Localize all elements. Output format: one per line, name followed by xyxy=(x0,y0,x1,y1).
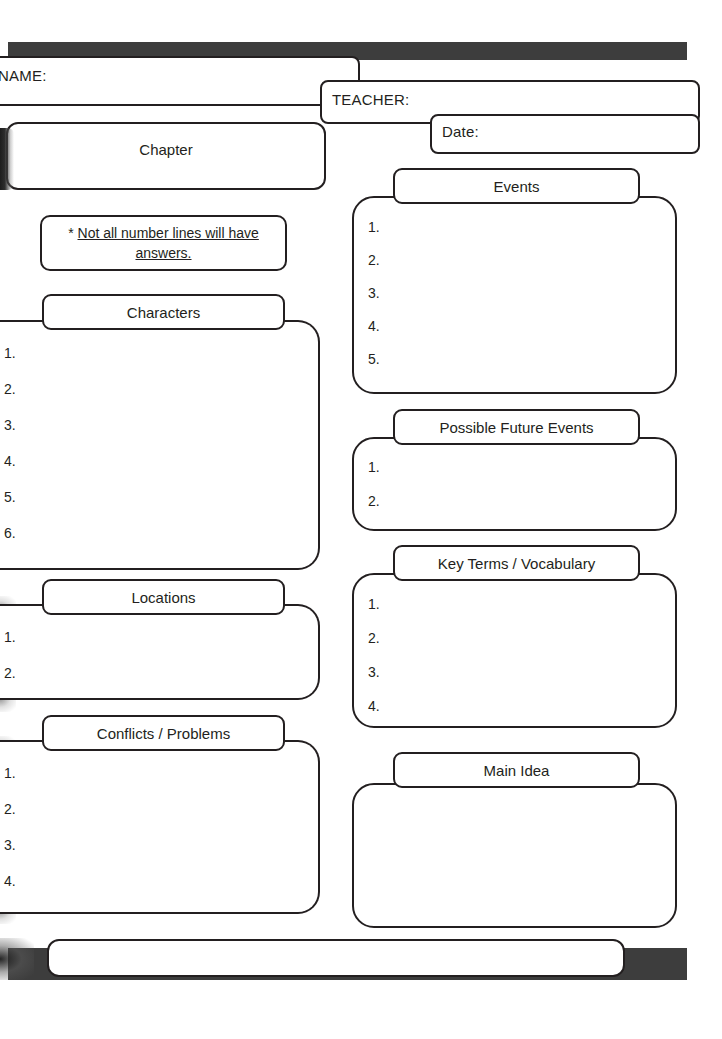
key-terms-title: Key Terms / Vocabulary xyxy=(438,555,595,572)
name-field[interactable]: NAME: xyxy=(0,56,360,106)
key-terms-number-3: 3. xyxy=(368,665,380,679)
events-body[interactable]: 1. 2. 3. 4. 5. xyxy=(352,196,677,394)
chapter-box[interactable]: Chapter xyxy=(6,122,326,190)
teacher-label: TEACHER: xyxy=(332,91,409,108)
key-terms-number-2: 2. xyxy=(368,631,380,645)
characters-title-tab: Characters xyxy=(42,294,285,330)
locations-number-2: 2. xyxy=(4,666,16,680)
characters-number-3: 3. xyxy=(4,418,16,432)
key-terms-number-1: 1. xyxy=(368,597,380,611)
note-line-2: answers. xyxy=(135,245,191,261)
main-idea-body[interactable] xyxy=(352,783,677,928)
note-text: * Not all number lines will haveanswers. xyxy=(68,223,259,264)
locations-number-1: 1. xyxy=(4,630,16,644)
conflicts-number-4: 4. xyxy=(4,874,16,888)
future-events-number-2: 2. xyxy=(368,494,380,508)
events-number-2: 2. xyxy=(368,253,380,267)
conflicts-title: Conflicts / Problems xyxy=(97,725,230,742)
conflicts-number-2: 2. xyxy=(4,802,16,816)
future-events-body[interactable]: 1. 2. xyxy=(352,437,677,531)
events-number-4: 4. xyxy=(368,319,380,333)
conflicts-number-3: 3. xyxy=(4,838,16,852)
future-events-title: Possible Future Events xyxy=(439,419,593,436)
characters-number-2: 2. xyxy=(4,382,16,396)
note-line-1: Not all number lines will have xyxy=(78,225,259,241)
locations-body[interactable]: 1. 2. xyxy=(0,604,320,700)
conflicts-number-1: 1. xyxy=(4,766,16,780)
characters-body[interactable]: 1. 2. 3. 4. 5. 6. xyxy=(0,320,320,570)
future-events-number-1: 1. xyxy=(368,460,380,474)
conflicts-title-tab: Conflicts / Problems xyxy=(42,715,285,751)
footer-box[interactable] xyxy=(47,939,625,977)
date-label: Date: xyxy=(442,123,479,140)
conflicts-body[interactable]: 1. 2. 3. 4. xyxy=(0,740,320,914)
locations-title: Locations xyxy=(131,589,195,606)
locations-title-tab: Locations xyxy=(42,579,285,615)
note-asterisk: * xyxy=(68,225,77,241)
main-idea-title-tab: Main Idea xyxy=(393,752,640,788)
key-terms-body[interactable]: 1. 2. 3. 4. xyxy=(352,573,677,728)
events-title-tab: Events xyxy=(393,168,640,204)
number-lines-note: * Not all number lines will haveanswers. xyxy=(40,215,287,271)
events-number-5: 5. xyxy=(368,352,380,366)
name-label: NAME: xyxy=(0,67,47,84)
name-writing-line xyxy=(0,104,334,106)
chapter-label: Chapter xyxy=(8,141,324,158)
characters-number-4: 4. xyxy=(4,454,16,468)
key-terms-title-tab: Key Terms / Vocabulary xyxy=(393,545,640,581)
characters-number-1: 1. xyxy=(4,346,16,360)
characters-number-6: 6. xyxy=(4,526,16,540)
events-number-3: 3. xyxy=(368,286,380,300)
date-field[interactable]: Date: xyxy=(430,114,700,154)
worksheet-page: NAME: TEACHER: Date: Chapter * Not all n… xyxy=(0,0,722,1039)
characters-title: Characters xyxy=(127,304,200,321)
events-number-1: 1. xyxy=(368,220,380,234)
main-idea-title: Main Idea xyxy=(484,762,550,779)
characters-number-5: 5. xyxy=(4,490,16,504)
future-events-title-tab: Possible Future Events xyxy=(393,409,640,445)
key-terms-number-4: 4. xyxy=(368,699,380,713)
events-title: Events xyxy=(494,178,540,195)
